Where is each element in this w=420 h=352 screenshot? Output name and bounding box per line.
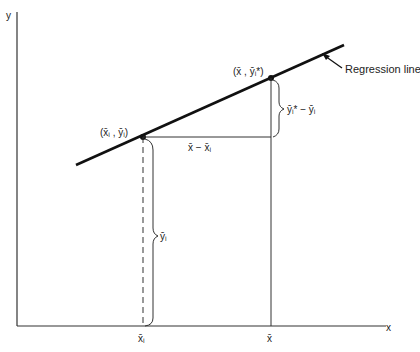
yi-brace — [145, 139, 158, 326]
predicted-point-label: (x̄ , ȳᵢ*) — [233, 66, 263, 77]
vertical-diff-brace — [273, 80, 284, 137]
regression-diagram: y x Regression line (x̄ᵢ , ȳᵢ) (x̄ , ȳᵢ*… — [0, 0, 420, 352]
y-axis-label: y — [6, 10, 11, 21]
observed-point-label: (x̄ᵢ , ȳᵢ) — [100, 127, 128, 138]
yi-brace-label: ȳᵢ — [160, 231, 167, 242]
xbar-tick-label: x̄ — [267, 333, 272, 344]
regression-line-label: Regression line — [345, 63, 420, 75]
vertical-diff-label: ȳᵢ* − ȳᵢ — [287, 104, 316, 115]
horizontal-diff-label: x̄ − x̄ᵢ — [188, 142, 211, 153]
x-axis-label: x — [386, 322, 391, 333]
xi-tick-label: x̄ᵢ — [138, 333, 145, 344]
